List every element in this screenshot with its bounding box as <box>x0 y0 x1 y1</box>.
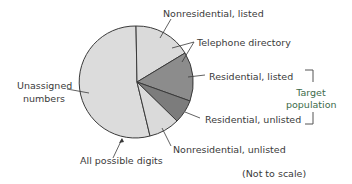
note-not-to-scale: (Not to scale) <box>242 168 306 179</box>
label-unassigned-line2: numbers <box>23 93 65 104</box>
label-residential-listed: Residential, listed <box>209 71 293 82</box>
label-telephone-directory: Telephone directory <box>197 37 291 48</box>
label-all-possible-digits: All possible digits <box>80 155 163 166</box>
label-target-line1: Target <box>291 87 331 98</box>
label-residential-unlisted: Residential, unlisted <box>205 114 301 125</box>
label-target-line2: population <box>286 99 336 110</box>
label-nonresidential-unlisted: Nonresidential, unlisted <box>173 144 286 155</box>
label-unassigned-line1: Unassigned <box>17 80 72 91</box>
arrowhead-icon <box>119 138 124 143</box>
label-nonresidential-listed: Nonresidential, listed <box>163 8 264 19</box>
